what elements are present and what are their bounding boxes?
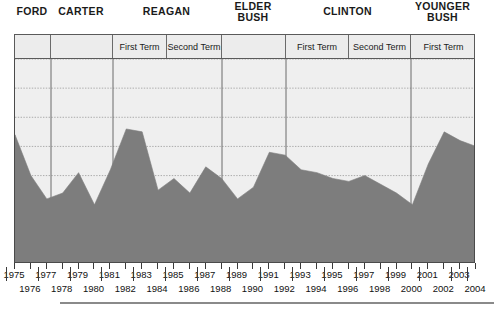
term-label: First Term: [424, 42, 464, 52]
axis-year-label: 1986: [172, 283, 206, 294]
axis-year-label: 1988: [204, 283, 238, 294]
axis-year-label: 1985: [156, 269, 190, 280]
axis-year-label: 1997: [347, 269, 381, 280]
axis-year-label: 2003: [442, 269, 476, 280]
president-heading-ford: FORD: [14, 6, 50, 17]
president-heading-younger-bush: YOUNGERBUSH: [410, 1, 475, 23]
axis-year-label: 1992: [267, 283, 301, 294]
axis-year-label: 1982: [108, 283, 142, 294]
axis-year-label: 1990: [235, 283, 269, 294]
president-heading-reagan: REAGAN: [112, 6, 221, 17]
axis-year-separator: [388, 267, 389, 281]
president-headings: FORDCARTERREAGANELDERBUSHCLINTONYOUNGERB…: [0, 0, 494, 30]
term-label: First Term: [120, 42, 160, 52]
axis-year-label: 1979: [61, 269, 95, 280]
axis-year-separator: [324, 267, 325, 281]
axis-year-separator: [419, 267, 420, 281]
axis-year-separator: [260, 267, 261, 281]
data-area-series: [15, 129, 475, 263]
axis-year-label: 2002: [426, 283, 460, 294]
axis-year-label: 2004: [458, 283, 492, 294]
axis-year-separator: [70, 267, 71, 281]
axis-year-label: 1994: [299, 283, 333, 294]
axis-year-label: 1983: [124, 269, 158, 280]
axis-year-label: 1996: [331, 283, 365, 294]
president-heading-carter: CARTER: [50, 6, 112, 17]
president-heading-line: CLINTON: [285, 6, 410, 17]
term-cell: [222, 35, 286, 58]
president-heading-line: BUSH: [410, 12, 475, 23]
axis-year-separator: [38, 267, 39, 281]
axis-year-separator: [133, 267, 134, 281]
axis-year-label: 1989: [220, 269, 254, 280]
axis-year-separator: [165, 267, 166, 281]
term-cell: First Term: [411, 35, 476, 58]
axis-year-separator: [197, 267, 198, 281]
president-heading-line: BUSH: [221, 12, 285, 23]
term-label: First Term: [297, 42, 337, 52]
axis-year-label: 1980: [76, 283, 110, 294]
axis-year-label: 1981: [92, 269, 126, 280]
axis-year-label: 1998: [363, 283, 397, 294]
term-cell: Second Term: [349, 35, 411, 58]
axis-year-label: 1976: [13, 283, 47, 294]
axis-year-separator: [229, 267, 230, 281]
axis-year-label: 2000: [394, 283, 428, 294]
axis-year-separator: [467, 267, 468, 281]
axis-year-label: 1978: [45, 283, 79, 294]
chart-plot-area: [14, 59, 475, 263]
president-heading-line: FORD: [14, 6, 50, 17]
axis-year-label: 1993: [283, 269, 317, 280]
president-heading-line: REAGAN: [112, 6, 221, 17]
president-heading-clinton: CLINTON: [285, 6, 410, 17]
term-cell: [51, 35, 113, 58]
axis-year-label: 1975: [0, 269, 31, 280]
term-band: First TermSecond TermFirst TermSecond Te…: [14, 34, 475, 59]
axis-year-label: 2001: [410, 269, 444, 280]
axis-year-label: 1984: [140, 283, 174, 294]
axis-year-separator: [292, 267, 293, 281]
axis-year-separator: [101, 267, 102, 281]
axis-year-separator: [6, 267, 7, 281]
area-chart-svg: [15, 59, 475, 263]
axis-year-label: 1977: [29, 269, 63, 280]
axis-year-label: 1987: [188, 269, 222, 280]
bottom-rule: [60, 302, 494, 304]
president-heading-line: CARTER: [50, 6, 112, 17]
term-cell: First Term: [113, 35, 167, 58]
axis-year-label: 1995: [315, 269, 349, 280]
chart-screenshot: FORDCARTERREAGANELDERBUSHCLINTONYOUNGERB…: [0, 0, 494, 312]
axis-year-label: 1991: [251, 269, 285, 280]
term-cell: First Term: [286, 35, 349, 58]
term-label: Second Term: [353, 42, 406, 52]
term-cell: Second Term: [167, 35, 222, 58]
term-label: Second Term: [168, 42, 221, 52]
axis-year-separator: [356, 267, 357, 281]
term-cell: [15, 35, 51, 58]
president-heading-elder-bush: ELDERBUSH: [221, 1, 285, 23]
axis-year-separator: [451, 267, 452, 281]
axis-year-label: 1999: [379, 269, 413, 280]
